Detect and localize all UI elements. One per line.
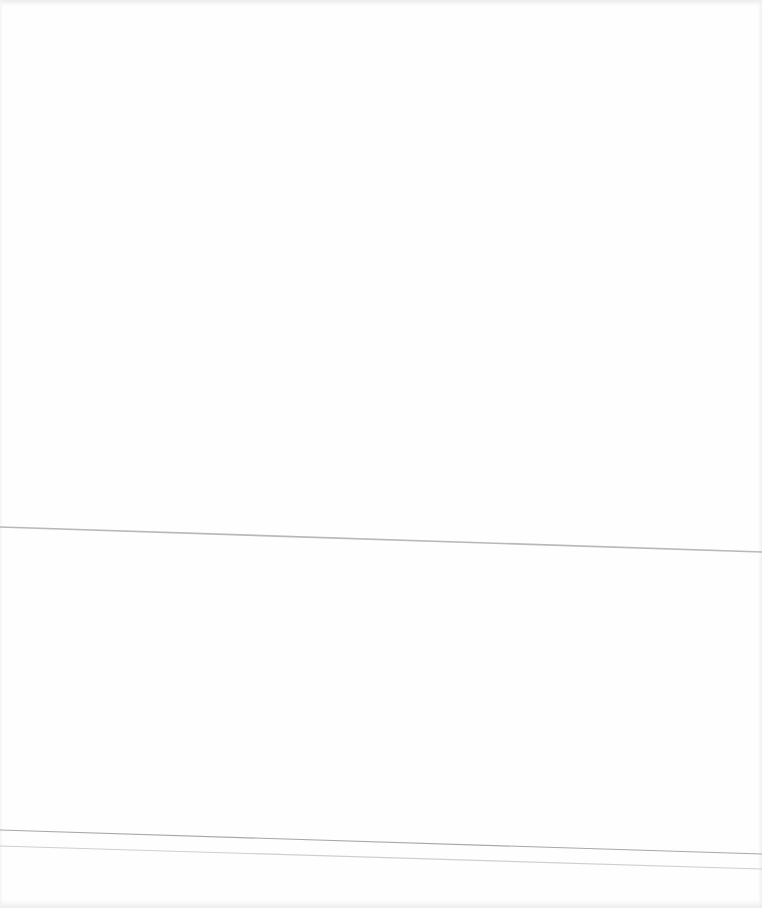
page-crease-lines [0,0,762,908]
fold-line-2 [0,830,762,854]
blank-document-page [0,0,762,908]
fold-line-3 [0,846,762,869]
fold-line-1 [0,527,762,552]
